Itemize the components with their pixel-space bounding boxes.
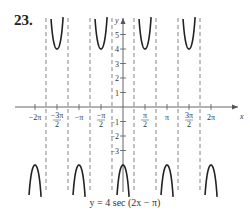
- upper-branch-curve: [95, 17, 107, 49]
- x-tick-label: 2: [143, 120, 147, 129]
- upper-branch-curve: [51, 17, 63, 49]
- x-tick-label: π: [165, 113, 169, 122]
- x-axis-label: x: [239, 112, 244, 121]
- lower-branch-curve: [205, 165, 217, 197]
- x-tick-label: 3π: [185, 111, 193, 120]
- upper-branch-curve: [139, 17, 151, 49]
- x-tick-label: π: [143, 111, 147, 120]
- y-axis-arrow-icon: [121, 18, 126, 24]
- x-tick-label: 2π: [207, 113, 215, 122]
- x-tick-label: 2: [55, 120, 59, 129]
- x-tick-label: 2: [99, 120, 103, 129]
- x-tick-label: 2: [187, 120, 191, 129]
- y-tick-label: 4: [115, 45, 119, 54]
- y-axis-label: y: [114, 16, 119, 25]
- secant-graph: xy−2π−3π2−π−π2π2π3π22π−3−2−112345: [0, 0, 250, 218]
- y-tick-label: −3: [110, 147, 119, 156]
- y-tick-label: 1: [115, 89, 119, 98]
- lower-branch-curve: [73, 165, 85, 197]
- x-tick-label: −2π: [29, 113, 42, 122]
- x-tick-label: −3π: [51, 111, 64, 120]
- x-tick-label: −π: [97, 111, 106, 120]
- x-tick-label: −π: [75, 113, 84, 122]
- upper-branch-curve: [183, 17, 195, 49]
- y-tick-label: −2: [110, 132, 119, 141]
- y-tick-label: −1: [110, 118, 119, 127]
- x-axis-arrow-icon: [232, 105, 238, 110]
- y-tick-label: 2: [115, 74, 119, 83]
- lower-branch-curve: [161, 165, 173, 197]
- y-tick-label: 3: [115, 60, 119, 69]
- function-caption: y = 4 sec (2x − π): [0, 197, 250, 208]
- y-tick-label: 5: [115, 31, 119, 40]
- lower-branch-curve: [29, 165, 41, 197]
